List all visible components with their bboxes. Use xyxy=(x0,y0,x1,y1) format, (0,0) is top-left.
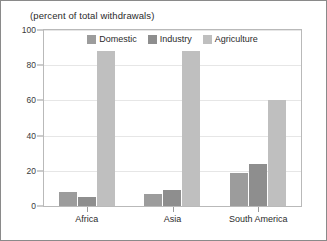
bar-agriculture-asia xyxy=(182,51,200,206)
plot-area xyxy=(44,30,301,206)
x-axis-tick-mark xyxy=(258,207,259,212)
bar-industry-africa xyxy=(78,197,96,206)
y-axis-tick-label: 100 xyxy=(0,25,36,35)
bar-industry-south-america xyxy=(249,164,267,206)
x-axis-tick-mark xyxy=(173,207,174,212)
y-axis-tick-mark xyxy=(37,65,43,66)
y-axis-tick-label: 20 xyxy=(0,166,36,176)
y-axis-tick-label: 40 xyxy=(0,131,36,141)
y-axis-tick-label: 80 xyxy=(0,60,36,70)
x-axis-tick-mark xyxy=(87,207,88,212)
plot-frame: DomesticIndustryAgriculture xyxy=(43,29,302,207)
bar-group xyxy=(130,30,216,206)
bar-domestic-south-america xyxy=(230,173,248,206)
y-axis-tick-label: 60 xyxy=(0,95,36,105)
y-axis-tick-mark xyxy=(37,135,43,136)
bar-domestic-asia xyxy=(144,194,162,206)
chart-figure: (percent of total withdrawals) DomesticI… xyxy=(0,0,327,241)
bar-agriculture-africa xyxy=(97,51,115,206)
y-axis-tick-label: 0 xyxy=(0,201,36,211)
x-axis-tick-label: Africa xyxy=(75,214,98,224)
bar-domestic-africa xyxy=(59,192,77,206)
bar-agriculture-south-america xyxy=(268,100,286,206)
y-axis-tick-mark xyxy=(37,170,43,171)
x-axis-tick-label: South America xyxy=(229,214,288,224)
y-axis-tick-mark xyxy=(37,206,43,207)
chart-subtitle: (percent of total withdrawals) xyxy=(30,10,154,21)
y-axis-tick-mark xyxy=(37,100,43,101)
bar-group xyxy=(44,30,130,206)
x-axis-tick-label: Asia xyxy=(164,214,182,224)
bar-group xyxy=(215,30,301,206)
y-axis-tick-mark xyxy=(37,30,43,31)
bar-industry-asia xyxy=(163,190,181,206)
